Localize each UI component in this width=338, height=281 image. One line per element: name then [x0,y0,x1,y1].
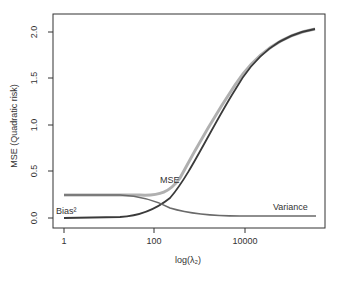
y-tick-0.5: 0.5 [29,165,39,178]
bias-annotation: Bias² [56,206,77,216]
y-tick-1: 1.0 [29,119,39,132]
variance-annotation: Variance [273,202,308,212]
y-tick-0: 0.0 [29,212,39,225]
x-axis-ticks [64,228,245,233]
x-axis-label: log(λ₂) [175,255,201,265]
x-tick-100: 100 [146,236,161,246]
y-axis-ticks [48,32,53,218]
y-axis-label: MSE (Quadratic risk) [9,84,19,168]
bias-curve [64,29,315,218]
x-tick-1: 1 [61,236,66,246]
y-tick-1.5: 1.5 [29,72,39,85]
mse-annotation: MSE [160,175,180,185]
x-tick-10000: 10000 [232,236,257,246]
chart-canvas [0,0,338,281]
y-tick-2: 2.0 [29,26,39,39]
